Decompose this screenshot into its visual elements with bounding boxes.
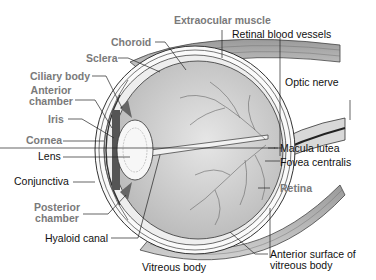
label-hyaloid-canal: Hyaloid canal (45, 233, 108, 244)
label-posterior-chamber-line2: chamber (32, 213, 82, 224)
lens-shape (117, 120, 153, 180)
label-choroid: Choroid (111, 37, 151, 48)
label-sclera: Sclera (86, 53, 118, 64)
label-anterior-surface: Anterior surface of vitreous body (270, 249, 356, 271)
label-anterior-chamber-line2: chamber (28, 96, 74, 107)
label-iris: Iris (48, 114, 64, 125)
label-ciliary-body: Ciliary body (30, 71, 90, 82)
label-lens: Lens (38, 151, 61, 162)
label-cornea: Cornea (26, 135, 62, 146)
label-optic-nerve: Optic nerve (285, 77, 339, 88)
label-extraocular-muscle: Extraocular muscle (174, 15, 271, 26)
label-conjunctiva: Conjunctiva (14, 176, 69, 187)
label-vitreous-body: Vitreous body (142, 262, 206, 273)
label-fovea-centralis: Fovea centralis (280, 157, 351, 168)
label-posterior-chamber: Posterior chamber (32, 202, 82, 224)
label-retinal-blood-vessels: Retinal blood vessels (232, 29, 331, 40)
label-anterior-surface-line2: vitreous body (270, 260, 356, 271)
label-retina: Retina (280, 183, 312, 194)
label-macula-lutea: Macula lutea (280, 143, 340, 154)
label-anterior-chamber: Anterior chamber (28, 85, 74, 107)
